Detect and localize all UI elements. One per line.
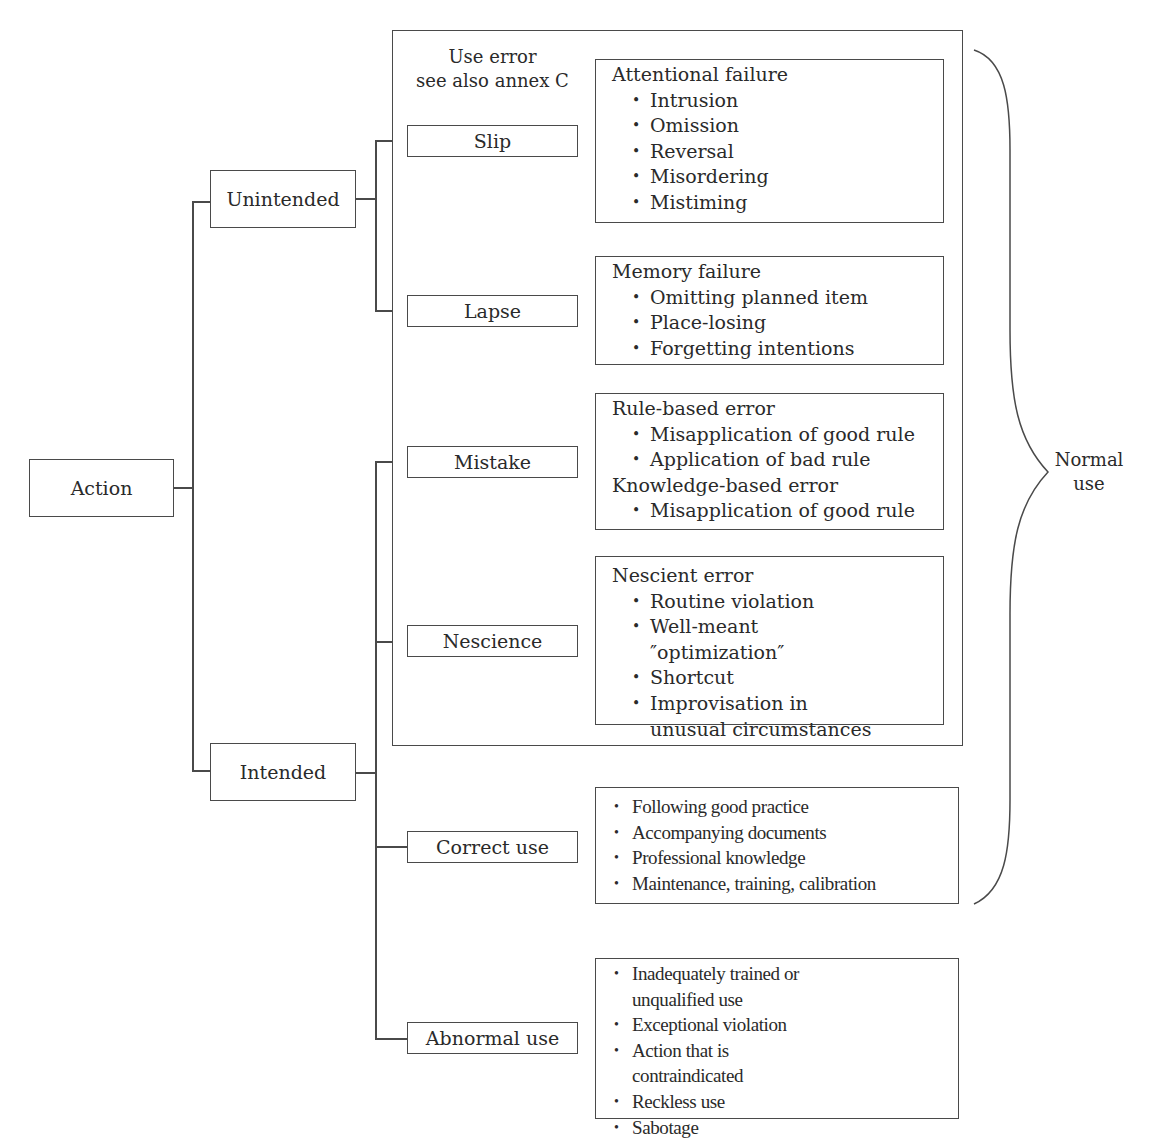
normal-use-label: Normal use	[1048, 448, 1130, 496]
normal-use-line1: Normal	[1048, 448, 1130, 472]
normal-use-line2: use	[1048, 472, 1130, 496]
curly-brace-icon	[0, 0, 1151, 1146]
